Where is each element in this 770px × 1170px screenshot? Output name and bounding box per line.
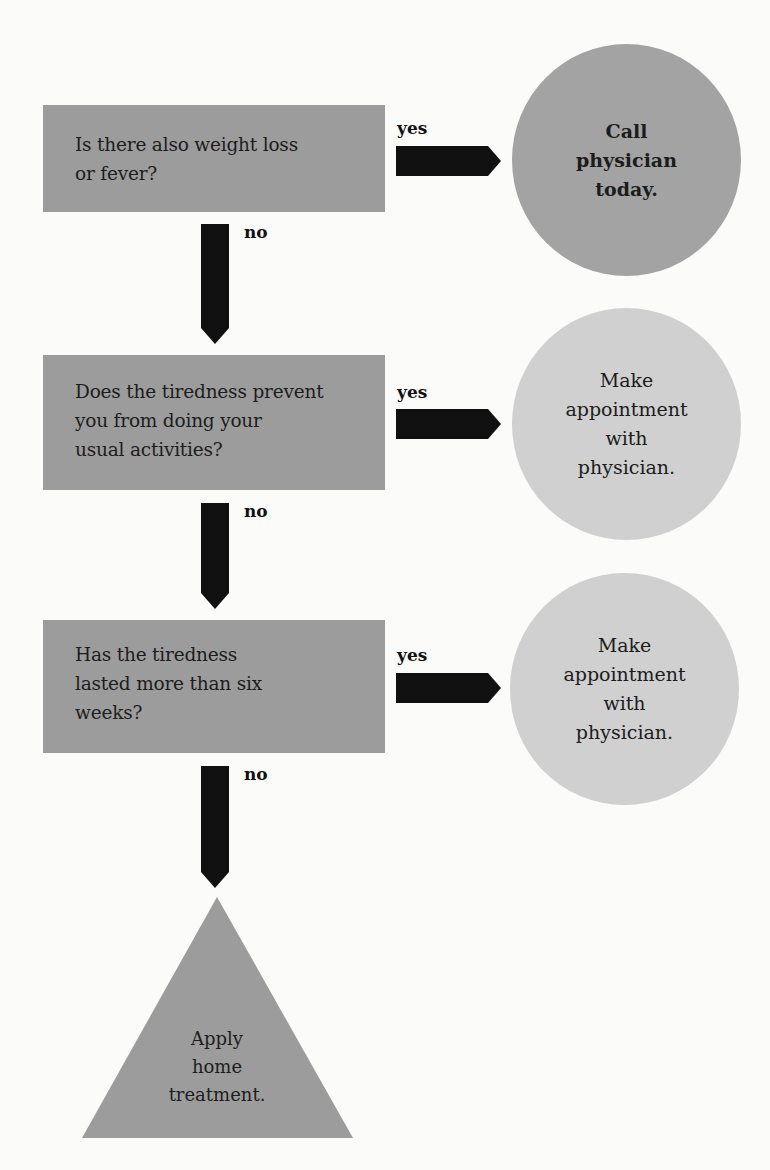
question-box-2: Does the tiredness prevent you from doin… — [43, 355, 385, 490]
outcome-text-3: Make appointment with physician. — [563, 631, 685, 747]
question-3-line-2: lasted more than six — [75, 669, 262, 698]
question-1-line-2: or fever? — [75, 159, 298, 188]
question-3-line-3: weeks? — [75, 698, 262, 727]
question-3-line-1: Has the tiredness — [75, 640, 262, 669]
no-label-3: no — [244, 764, 268, 784]
no-arrow-2 — [201, 503, 229, 609]
outcome-circle-1: Call physician today. — [512, 44, 741, 276]
question-1-line-1: Is there also weight loss — [75, 130, 298, 159]
no-arrow-1 — [201, 224, 229, 344]
question-box-1: Is there also weight loss or fever? — [43, 105, 385, 212]
outcome-circle-3: Make appointment with physician. — [510, 573, 739, 805]
yes-label-1: yes — [397, 118, 427, 138]
question-box-3: Has the tiredness lasted more than six w… — [43, 620, 385, 753]
final-outcome-text: Apply home treatment. — [117, 1025, 317, 1109]
no-label-1: no — [244, 222, 268, 242]
outcome-text-2: Make appointment with physician. — [565, 366, 687, 482]
yes-arrow-1 — [396, 146, 501, 176]
question-2-line-3: usual activities? — [75, 435, 323, 464]
yes-arrow-2 — [396, 409, 501, 439]
no-arrow-3 — [201, 766, 229, 888]
question-2-line-1: Does the tiredness prevent — [75, 377, 323, 406]
question-2-line-2: you from doing your — [75, 406, 323, 435]
outcome-circle-2: Make appointment with physician. — [512, 308, 741, 540]
no-label-2: no — [244, 501, 268, 521]
outcome-text-1: Call physician today. — [576, 117, 677, 204]
yes-label-2: yes — [397, 382, 427, 402]
question-text-3: Has the tiredness lasted more than six w… — [75, 640, 262, 727]
question-text-2: Does the tiredness prevent you from doin… — [75, 377, 323, 464]
yes-arrow-3 — [396, 673, 501, 703]
yes-label-3: yes — [397, 645, 427, 665]
question-text-1: Is there also weight loss or fever? — [75, 130, 298, 188]
